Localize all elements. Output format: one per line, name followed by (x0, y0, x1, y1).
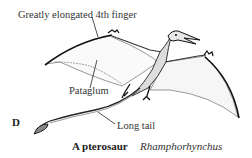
caption-common-name: A pterosaur (72, 140, 128, 152)
pterosaur-illustration (0, 0, 252, 158)
label-long-tail: Long tail (117, 120, 155, 131)
caption-genus-name: Rhamphorhynchus (140, 140, 222, 152)
panel-letter: D (12, 116, 20, 128)
label-patagium: Pataglum (69, 85, 109, 96)
label-elongated-finger: Greatly elongated 4th finger (18, 9, 137, 20)
